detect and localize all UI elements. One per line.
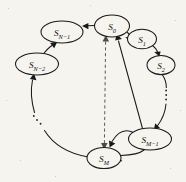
node-s2[interactable]: S2 [147,55,175,74]
node-s0[interactable]: S0 [95,15,130,37]
state-transition-diagram: S0 S1 S2 SM−1 SM SN−2 SN−1 [0,0,186,182]
node-sn-minus-2[interactable]: SN−2 [16,53,59,75]
edge-sn2-to-sn1 [43,42,57,55]
edge-s0-to-sn1 [82,23,94,29]
node-sn-minus-1[interactable]: SN−1 [41,21,83,43]
node-s1[interactable]: S1 [128,29,157,49]
edge-sm-to-sn2 [30,74,89,158]
diagram-canvas: S0 S1 S2 SM−1 SM SN−2 SN−1 [0,0,186,182]
edge-s0-sm-dashed [101,35,109,149]
node-sm-minus-1[interactable]: SM−1 [129,128,172,150]
node-sm[interactable]: SM [87,147,121,168]
edge-s2-to-sm1 [154,75,167,130]
ellipsis-left [33,115,42,125]
ellipsis-right [165,90,167,101]
